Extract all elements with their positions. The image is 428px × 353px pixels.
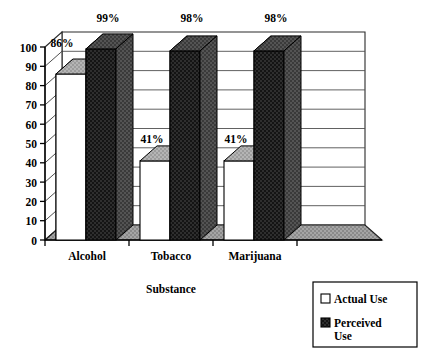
y-tick-label: 70 xyxy=(26,99,38,111)
y-tick-label: 0 xyxy=(31,235,37,247)
value-label-tobacco-actual: 41% xyxy=(141,133,164,145)
x-axis-title: Substance xyxy=(146,283,196,295)
y-tick-label: 30 xyxy=(26,177,38,189)
bar-group-alcohol xyxy=(56,34,133,240)
y-axis xyxy=(40,47,45,240)
chart-canvas: 100 90 80 70 60 50 40 30 20 10 0 xyxy=(0,0,428,353)
y-tick-label: 60 xyxy=(26,119,38,131)
legend-swatch-actual-use xyxy=(321,294,330,303)
y-tick-label: 100 xyxy=(20,42,38,54)
x-category-labels: Alcohol Tobacco Marijuana xyxy=(68,250,282,263)
category-label-alcohol: Alcohol xyxy=(68,250,106,262)
chart-legend: Actual Use Perceived Use xyxy=(313,282,417,347)
value-label-tobacco-perceived: 98% xyxy=(181,12,204,24)
x-axis xyxy=(45,240,382,246)
bar-alcohol-perceived xyxy=(86,34,133,240)
value-label-alcohol-perceived: 99% xyxy=(97,12,120,24)
y-tick-label: 50 xyxy=(26,138,38,150)
y-tick-label: 80 xyxy=(26,80,38,92)
y-tick-labels: 100 90 80 70 60 50 40 30 20 10 0 xyxy=(20,42,38,247)
legend-label-perceived-use-line2: Use xyxy=(334,330,352,342)
category-label-tobacco: Tobacco xyxy=(151,250,192,262)
bar-tobacco-perceived xyxy=(170,36,217,240)
y-tick-label: 40 xyxy=(26,157,38,169)
legend-label-perceived-use: Perceived xyxy=(334,317,382,329)
bar-marijuana-perceived xyxy=(254,36,301,240)
legend-label-actual-use: Actual Use xyxy=(334,293,387,305)
value-label-alcohol-actual: 86% xyxy=(51,37,74,49)
y-tick-label: 20 xyxy=(26,196,38,208)
y-tick-label: 10 xyxy=(26,215,38,227)
value-label-marijuana-actual: 41% xyxy=(225,133,248,145)
legend-swatch-perceived-use xyxy=(321,318,330,327)
bar-chart-figure: 100 90 80 70 60 50 40 30 20 10 0 xyxy=(0,0,428,353)
category-label-marijuana: Marijuana xyxy=(228,250,281,263)
y-tick-label: 90 xyxy=(26,61,38,73)
value-label-marijuana-perceived: 98% xyxy=(265,12,288,24)
